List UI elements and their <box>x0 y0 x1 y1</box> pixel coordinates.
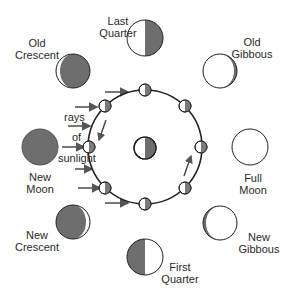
label-line: Crescent <box>14 49 60 61</box>
label-line: Quarter <box>160 273 200 285</box>
label-line: Moon <box>22 183 58 195</box>
label-line: Full <box>238 172 268 184</box>
label-line: Crescent <box>14 241 60 253</box>
label-line: Last <box>92 15 144 27</box>
earth <box>134 137 156 159</box>
orbit-moon <box>179 100 191 112</box>
new-crescent-moon <box>56 205 90 239</box>
label-full-moon: Full Moon <box>238 172 268 196</box>
label-line: Old <box>14 37 60 49</box>
label-line: New <box>14 229 60 241</box>
label-of: of <box>72 131 81 143</box>
label-line: Gibbous <box>226 48 278 60</box>
label-line: Gibbous <box>233 243 285 255</box>
label-line: Old <box>226 36 278 48</box>
label-sunlight: sunlight <box>58 152 96 164</box>
label-line: First <box>160 261 200 273</box>
first-quarter-moon <box>127 239 163 275</box>
label-last-quarter: Last Quarter <box>92 15 144 39</box>
label-new-crescent: New Crescent <box>14 229 60 253</box>
label-line: New <box>233 231 285 243</box>
full-moon <box>232 129 268 165</box>
label-first-quarter: First Quarter <box>160 261 200 285</box>
orbit-moon <box>139 198 151 210</box>
old-crescent-moon <box>56 54 90 88</box>
label-new-moon: New Moon <box>22 171 58 195</box>
label-line: Quarter <box>92 27 144 39</box>
orbit-moon <box>99 100 111 112</box>
orbit-moon <box>139 84 151 96</box>
label-old-gibbous: Old Gibbous <box>226 36 278 60</box>
orbit-moon <box>179 182 191 194</box>
label-line: New <box>22 171 58 183</box>
orbit-arrow-icon <box>184 156 191 176</box>
label-line: Moon <box>238 184 268 196</box>
new-gibbous-moon <box>203 206 237 240</box>
orbit-arrow-icon <box>99 120 106 140</box>
label-new-gibbous: New Gibbous <box>233 231 285 255</box>
orbit-moon <box>99 182 111 194</box>
label-old-crescent: Old Crescent <box>14 37 60 61</box>
new-moon <box>22 129 58 165</box>
orbit-moon <box>195 141 207 153</box>
label-rays: rays <box>64 111 85 123</box>
